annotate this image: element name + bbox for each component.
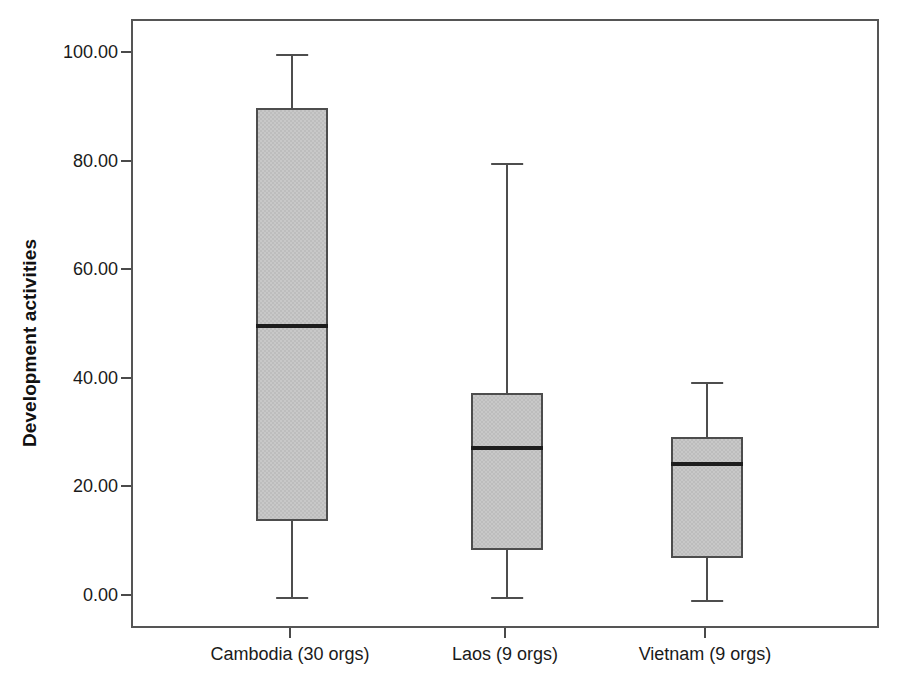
lower-whisker-cap xyxy=(491,597,523,599)
iqr-box xyxy=(671,437,743,558)
y-axis-tick-mark xyxy=(121,485,131,487)
x-axis-tick-mark xyxy=(289,628,291,638)
plot-area xyxy=(131,19,879,628)
y-axis-tick-labels: 100.0080.0060.0040.0020.000.00 xyxy=(18,0,118,686)
median-line xyxy=(471,446,543,450)
upper-whisker-cap xyxy=(491,163,523,165)
y-axis-tick-mark xyxy=(121,377,131,379)
y-axis-tick-label: 40.00 xyxy=(22,367,118,388)
lower-whisker-stem xyxy=(291,521,293,597)
upper-whisker-cap xyxy=(276,54,308,56)
y-axis-tick-label: 20.00 xyxy=(22,476,118,497)
lower-whisker-cap xyxy=(691,600,723,602)
lower-whisker-cap xyxy=(276,597,308,599)
boxplot-laos xyxy=(471,21,543,626)
x-axis-tick-label: Cambodia (30 orgs) xyxy=(210,644,369,665)
x-axis-tick-label: Vietnam (9 orgs) xyxy=(639,644,772,665)
lower-whisker-stem xyxy=(506,550,508,597)
upper-whisker-stem xyxy=(291,54,293,108)
upper-whisker-stem xyxy=(506,163,508,394)
iqr-box xyxy=(256,108,328,521)
median-line xyxy=(671,462,743,466)
y-axis-tick-label: 100.00 xyxy=(22,42,118,63)
y-axis-tick-mark xyxy=(121,160,131,162)
y-axis-tick-label: 60.00 xyxy=(22,259,118,280)
y-axis-tick-label: 0.00 xyxy=(22,585,118,606)
median-line xyxy=(256,324,328,328)
y-axis-tick-mark xyxy=(121,51,131,53)
x-axis-tick-mark xyxy=(704,628,706,638)
y-axis-tick-mark xyxy=(121,594,131,596)
y-axis-tick-mark xyxy=(121,268,131,270)
boxplot-vietnam xyxy=(671,21,743,626)
plot-inner xyxy=(133,21,877,626)
lower-whisker-stem xyxy=(706,558,708,600)
x-axis-tick-label: Laos (9 orgs) xyxy=(452,644,558,665)
iqr-box xyxy=(471,393,543,550)
boxplot-cambodia xyxy=(256,21,328,626)
x-axis-tick-mark xyxy=(504,628,506,638)
y-axis-tick-label: 80.00 xyxy=(22,150,118,171)
boxplot-figure: Development activities 100.0080.0060.004… xyxy=(0,0,898,686)
upper-whisker-stem xyxy=(706,382,708,437)
upper-whisker-cap xyxy=(691,382,723,384)
